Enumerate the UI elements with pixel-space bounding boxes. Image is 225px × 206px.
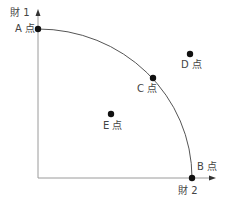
- label-point-c: C 点: [137, 84, 157, 94]
- point-b: [189, 175, 195, 181]
- x-axis-arrow-icon: [209, 176, 216, 181]
- frontier-curve: [38, 29, 192, 178]
- point-a: [35, 26, 41, 32]
- point-d: [187, 51, 193, 57]
- label-point-b: B 点: [197, 162, 217, 172]
- point-e: [108, 111, 114, 117]
- label-point-a: A 点: [15, 24, 35, 34]
- y-axis-label: 財 1: [10, 8, 30, 18]
- x-axis-label: 財 2: [178, 186, 198, 196]
- y-axis-arrow-icon: [36, 9, 41, 16]
- point-c: [150, 75, 156, 81]
- label-point-e: E 点: [103, 121, 123, 131]
- label-point-d: D 点: [181, 60, 202, 70]
